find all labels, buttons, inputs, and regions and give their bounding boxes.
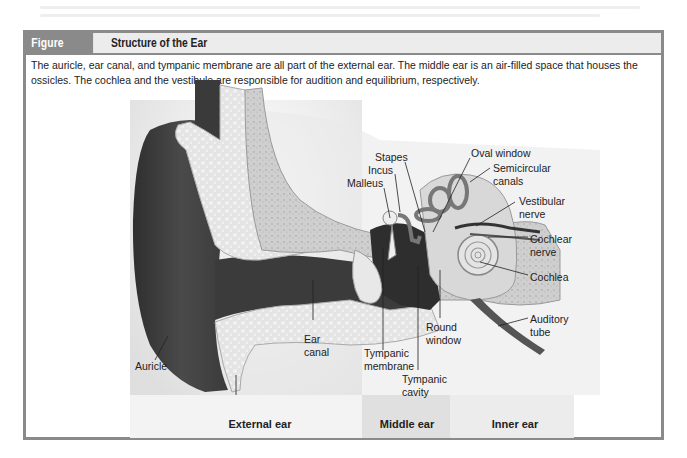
label-vestibular-nerve-line2: nerve (519, 208, 545, 220)
label-semicircular-canals-line2: canals (493, 175, 523, 187)
label-vestibular-nerve-line1: Vestibular (519, 195, 565, 207)
region-label-external-ear: External ear (200, 418, 320, 430)
label-ear-canal-line1: Ear (304, 333, 320, 345)
label-tympanic-cavity-line2: cavity (402, 386, 429, 398)
label-ear-canal-line2: canal (304, 346, 329, 358)
label-tympanic-membrane-line1: Tympanic (364, 347, 409, 359)
label-cochlea: Cochlea (530, 271, 569, 283)
label-oval-window: Oval window (471, 147, 531, 159)
label-auditory-tube-line1: Auditory (530, 313, 569, 325)
label-tympanic-cavity-line1: Tympanic (402, 373, 447, 385)
label-round-window-line1: Round (426, 321, 457, 333)
label-round-window-line2: window (426, 334, 461, 346)
label-incus: Incus (368, 164, 393, 176)
label-auricle: Auricle (135, 360, 167, 372)
label-cochlear-nerve-line1: Cochlear (530, 233, 572, 245)
label-stapes: Stapes (375, 151, 408, 163)
label-tympanic-membrane-line2: membrane (364, 360, 414, 372)
label-auditory-tube-line2: tube (530, 326, 550, 338)
ear-anatomy-illustration (0, 0, 687, 458)
label-cochlear-nerve-line2: nerve (530, 246, 556, 258)
label-malleus: Malleus (347, 177, 383, 189)
region-label-inner-ear: Inner ear (460, 418, 570, 430)
region-label-middle-ear: Middle ear (365, 418, 449, 430)
label-semicircular-canals-line1: Semicircular (493, 162, 551, 174)
